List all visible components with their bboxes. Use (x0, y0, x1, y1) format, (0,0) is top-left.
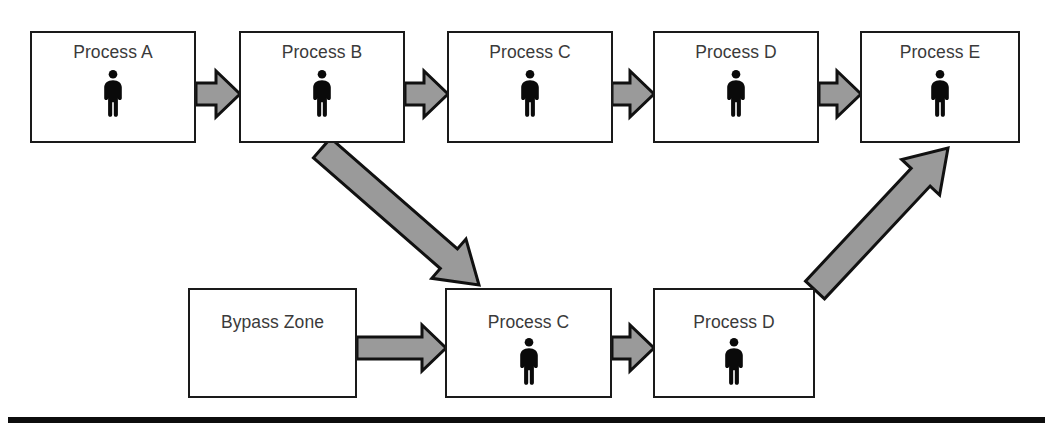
top-process-b-label: Process B (241, 42, 403, 63)
person-icon (519, 69, 541, 117)
arrow-c-to-d (612, 71, 654, 117)
top-process-c[interactable]: Process C (447, 31, 613, 143)
top-process-d-label: Process D (655, 42, 817, 63)
arrow-d-to-e (819, 71, 861, 117)
person-icon (311, 69, 333, 117)
bottom-process-c[interactable]: Process C (445, 288, 612, 398)
arrow-b-down-to-bottom-c (313, 138, 479, 285)
person-icon (102, 69, 124, 117)
bottom-bypass-zone-label: Bypass Zone (190, 312, 355, 333)
person-icon (725, 69, 747, 117)
bottom-process-c-label: Process C (447, 312, 610, 333)
arrow-bottom-d-up-to-e (806, 148, 948, 299)
person-icon (723, 337, 745, 385)
person-icon (518, 337, 540, 385)
top-process-a[interactable]: Process A (30, 31, 196, 143)
arrow-bottom-c-to-d (612, 325, 654, 371)
top-process-c-label: Process C (449, 42, 611, 63)
person-icon (929, 69, 951, 117)
arrow-b-to-c (405, 71, 448, 117)
bottom-bypass-zone[interactable]: Bypass Zone (188, 288, 357, 398)
top-process-d[interactable]: Process D (653, 31, 819, 143)
arrow-a-to-b (196, 71, 240, 117)
top-process-e[interactable]: Process E (860, 31, 1020, 143)
bottom-process-d-label: Process D (655, 312, 813, 333)
bottom-process-d[interactable]: Process D (653, 288, 815, 398)
arrow-bypass-to-process-c (357, 325, 446, 371)
top-process-a-label: Process A (32, 42, 194, 63)
top-process-e-label: Process E (862, 42, 1018, 63)
top-process-b[interactable]: Process B (239, 31, 405, 143)
baseline-divider (8, 417, 1045, 423)
diagram-canvas: Process AProcess BProcess CProcess DProc… (0, 0, 1053, 434)
